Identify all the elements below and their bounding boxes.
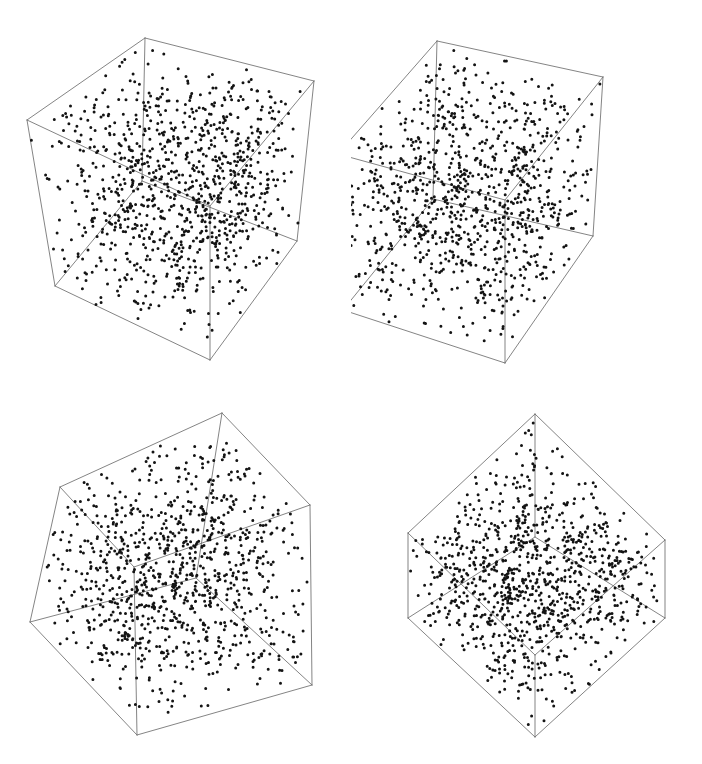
- scatter-points: [351, 49, 601, 342]
- cube-edge-9: [593, 77, 603, 236]
- cube-edge-7: [408, 414, 535, 533]
- cube-edge-5: [134, 505, 310, 567]
- randu-lattice-hyperplanes: [351, 382, 702, 764]
- cube-wireframe: [27, 38, 314, 360]
- cube-edge-9: [310, 505, 312, 685]
- point-cloud: [351, 49, 601, 342]
- cube-edge-1: [505, 236, 593, 363]
- cube-edge-1: [137, 685, 312, 735]
- uniform-random-triplets-view-c: [0, 382, 351, 764]
- cube-edge-4: [535, 414, 665, 540]
- cube-edge-2: [351, 310, 505, 363]
- randu-lattice-hyperplanes-canvas: [351, 382, 702, 764]
- cube-edge-2: [55, 286, 210, 360]
- cube-edge-5: [505, 77, 603, 200]
- cube-wireframe: [351, 41, 603, 363]
- cube-edge-2: [408, 618, 535, 737]
- cube-edge-7: [27, 38, 145, 120]
- point-cloud: [409, 422, 658, 727]
- point-cloud: [30, 49, 302, 339]
- scatter-points: [46, 442, 309, 714]
- cube-edge-6: [60, 487, 134, 567]
- uniform-random-triplets-view-c-canvas: [0, 382, 351, 764]
- uniform-random-triplets-view-b-canvas: [351, 0, 702, 382]
- cube-edge-4: [222, 413, 310, 505]
- cube-edge-11: [30, 487, 60, 622]
- uniform-random-triplets-view-b: [351, 0, 702, 382]
- cube-edge-7: [351, 41, 437, 154]
- scatter-points: [30, 49, 302, 339]
- scatter-points: [409, 422, 658, 727]
- uniform-random-triplets-view-a-canvas: [0, 0, 351, 382]
- cube-wireframe: [408, 414, 665, 737]
- cube-edge-1: [535, 618, 665, 737]
- figure-root: [0, 0, 702, 764]
- cube-edge-4: [145, 38, 314, 81]
- cube-edge-7: [60, 413, 222, 487]
- cube-edge-8: [196, 413, 222, 578]
- cube-edge-4: [437, 41, 603, 77]
- cube-edge-9: [297, 81, 314, 241]
- uniform-random-triplets-view-a: [0, 0, 351, 382]
- cube-edge-1: [210, 241, 297, 360]
- cube-edge-0: [196, 578, 312, 685]
- cube-edge-11: [27, 120, 55, 286]
- point-cloud: [46, 442, 309, 714]
